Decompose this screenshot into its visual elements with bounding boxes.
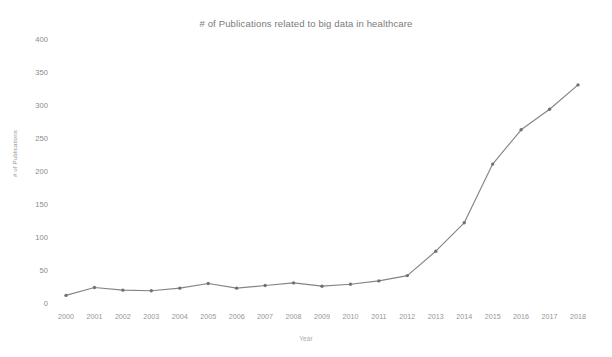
series-data-point: [463, 221, 466, 224]
series-data-point: [93, 286, 96, 289]
plot-area: [0, 0, 612, 357]
series-data-point: [548, 108, 551, 111]
series-data-point: [576, 83, 579, 86]
series-data-point: [491, 162, 494, 165]
series-line-publications: [66, 85, 578, 296]
series-data-point: [292, 281, 295, 284]
series-data-point: [207, 282, 210, 285]
series-data-point: [434, 250, 437, 253]
series-data-point: [150, 289, 153, 292]
series-data-point: [377, 279, 380, 282]
series-data-point: [349, 283, 352, 286]
series-data-point: [235, 286, 238, 289]
series-data-point: [178, 286, 181, 289]
series-data-point: [121, 288, 124, 291]
series-data-point: [64, 294, 67, 297]
series-data-point: [519, 128, 522, 131]
series-data-point: [263, 284, 266, 287]
series-data-point: [320, 284, 323, 287]
chart-container: # of Publications related to big data in…: [0, 0, 612, 357]
series-data-point: [406, 274, 409, 277]
series-markers: [64, 83, 579, 297]
